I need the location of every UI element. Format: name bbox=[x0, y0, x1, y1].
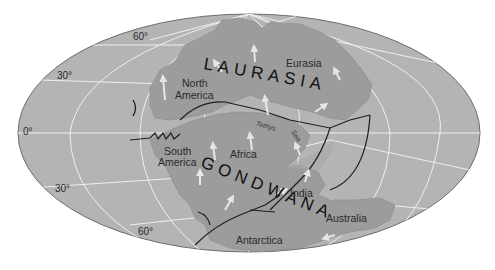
eurasia-label: Eurasia bbox=[286, 57, 322, 69]
map-canvas: 60° 30° 0° 30° 60° LAURASIA GONDWANA Nor… bbox=[0, 0, 495, 270]
antarctica-label: Antarctica bbox=[236, 234, 283, 246]
africa-label: Africa bbox=[230, 148, 257, 160]
north-america-label-2: America bbox=[175, 89, 214, 101]
india-label: India bbox=[290, 187, 313, 199]
pangaea-map: 60° 30° 0° 30° 60° LAURASIA GONDWANA Nor… bbox=[0, 0, 495, 270]
latitude-label-n30: 30° bbox=[57, 70, 72, 81]
south-america-label-2: America bbox=[158, 156, 197, 168]
north-america-label: North bbox=[182, 77, 208, 89]
australia-label: Australia bbox=[326, 212, 367, 224]
latitude-label-s30: 30° bbox=[55, 183, 70, 194]
latitude-label-s60: 60° bbox=[138, 226, 153, 237]
latitude-label-n60: 60° bbox=[133, 31, 148, 42]
latitude-label-eq: 0° bbox=[23, 126, 33, 137]
